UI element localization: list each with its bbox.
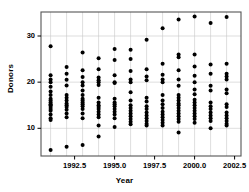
data-point xyxy=(177,68,181,72)
data-point xyxy=(225,105,229,109)
data-point xyxy=(81,83,85,87)
data-point xyxy=(209,84,213,88)
data-point xyxy=(193,64,197,68)
data-point xyxy=(81,112,85,116)
x-tick-label: 1997.5 xyxy=(135,161,175,170)
data-point xyxy=(145,100,149,104)
data-point xyxy=(209,88,213,92)
data-point xyxy=(81,75,85,79)
data-point xyxy=(81,107,85,111)
data-point xyxy=(145,78,149,82)
data-point xyxy=(145,107,149,111)
data-point xyxy=(49,89,53,93)
data-point xyxy=(129,69,133,73)
data-point xyxy=(97,83,101,87)
data-point xyxy=(193,15,197,19)
data-point xyxy=(177,17,181,21)
y-tick-label: 10 xyxy=(5,123,35,132)
data-point xyxy=(65,72,69,76)
data-point xyxy=(145,96,149,100)
data-point xyxy=(81,143,85,147)
data-point xyxy=(113,47,117,51)
data-point xyxy=(177,84,181,88)
data-point xyxy=(129,90,133,94)
data-point xyxy=(193,52,197,56)
data-point xyxy=(65,65,69,69)
data-point xyxy=(129,122,133,126)
x-tick-label: 2002.5 xyxy=(215,161,249,170)
data-point xyxy=(97,56,101,60)
data-point xyxy=(145,124,149,128)
data-point xyxy=(209,72,213,76)
data-point xyxy=(209,119,213,123)
data-point xyxy=(193,117,197,121)
data-point xyxy=(161,80,165,84)
data-point xyxy=(97,67,101,71)
data-point xyxy=(161,26,165,30)
data-point xyxy=(177,77,181,81)
data-point xyxy=(65,83,69,87)
x-tick-label: 2000.0 xyxy=(175,161,215,170)
data-point xyxy=(49,73,53,77)
data-point xyxy=(113,116,117,120)
data-point xyxy=(193,92,197,96)
data-point xyxy=(193,74,197,78)
data-point xyxy=(81,93,85,97)
data-point xyxy=(225,15,229,19)
data-point xyxy=(81,116,85,120)
data-point xyxy=(177,120,181,124)
data-point xyxy=(81,68,85,72)
data-point xyxy=(81,88,85,92)
data-point xyxy=(49,85,53,89)
data-point xyxy=(97,115,101,119)
data-point xyxy=(113,112,117,116)
data-point xyxy=(161,124,165,128)
data-point xyxy=(145,67,149,71)
data-point xyxy=(65,145,69,149)
data-point xyxy=(129,48,133,52)
data-point xyxy=(161,93,165,97)
data-point xyxy=(209,100,213,104)
data-point xyxy=(225,62,229,66)
data-point xyxy=(113,58,117,62)
data-point xyxy=(49,80,53,84)
data-point xyxy=(161,102,165,106)
data-point xyxy=(113,97,117,101)
data-point xyxy=(97,135,101,139)
data-point xyxy=(145,75,149,79)
data-point xyxy=(161,99,165,103)
x-tick-label: 1992.5 xyxy=(55,161,95,170)
data-point xyxy=(129,80,133,84)
data-point xyxy=(209,63,213,67)
y-tick-label: 20 xyxy=(5,77,35,86)
data-point xyxy=(49,44,53,48)
data-point xyxy=(225,88,229,92)
data-point xyxy=(113,81,117,85)
data-point xyxy=(49,148,53,152)
data-point xyxy=(225,91,229,95)
data-point xyxy=(193,80,197,84)
data-point xyxy=(193,121,197,125)
data-point xyxy=(129,99,133,103)
data-point xyxy=(97,96,101,100)
data-point xyxy=(161,106,165,110)
data-point xyxy=(97,124,101,128)
data-point xyxy=(65,115,69,119)
data-point xyxy=(177,130,181,134)
data-point xyxy=(129,57,133,61)
data-point xyxy=(225,77,229,81)
data-point xyxy=(113,73,117,77)
data-point xyxy=(49,93,53,97)
data-point xyxy=(161,73,165,77)
x-tick-label: 1995.0 xyxy=(95,161,135,170)
data-point xyxy=(65,78,69,82)
data-point xyxy=(145,38,149,42)
data-point xyxy=(161,62,165,66)
scatter-chart: Donors Year 1992.51995.01997.52000.02002… xyxy=(0,0,249,192)
data-point xyxy=(193,88,197,92)
data-point xyxy=(225,124,229,128)
data-point xyxy=(49,118,53,122)
data-point xyxy=(49,109,53,113)
data-point xyxy=(81,51,85,55)
data-point xyxy=(65,112,69,116)
